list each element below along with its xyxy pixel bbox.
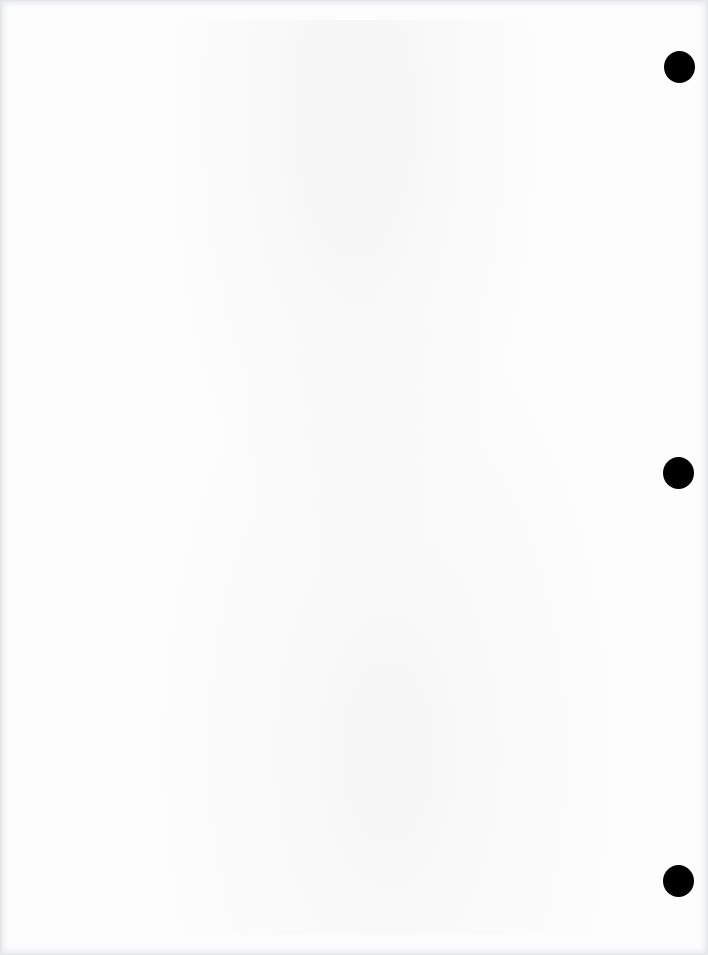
punch-hole-bottom xyxy=(663,865,694,897)
faint-bleed-through xyxy=(20,20,688,935)
punch-hole-top xyxy=(664,51,695,83)
punch-hole-middle xyxy=(663,457,694,489)
blank-document-page xyxy=(0,0,708,955)
